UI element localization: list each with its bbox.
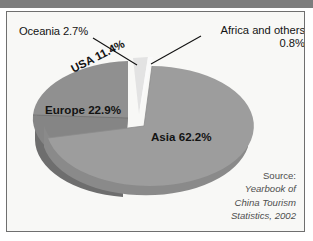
top-gray-band	[0, 0, 313, 8]
pie-chart: Oceania 2.7% Africa and others 0.8% USA …	[7, 12, 304, 231]
label-africa-line1: Africa and others	[220, 24, 304, 36]
label-europe: Europe 22.9%	[45, 103, 121, 116]
figure-frame-inner: Oceania 2.7% Africa and others 0.8% USA …	[7, 12, 304, 231]
source-line-4: Statistics, 2002	[231, 209, 296, 223]
source-line-1: Source:	[231, 169, 296, 183]
label-africa-line2: 0.8%	[205, 37, 304, 50]
label-africa: Africa and others 0.8%	[205, 24, 304, 49]
source-line-3: China Tourism	[231, 196, 296, 210]
figure-root: Oceania 2.7% Africa and others 0.8% USA …	[0, 0, 313, 241]
label-asia: Asia 62.2%	[151, 130, 212, 143]
figure-frame: Oceania 2.7% Africa and others 0.8% USA …	[6, 11, 305, 232]
label-oceania: Oceania 2.7%	[19, 25, 88, 38]
source-note: Source: Yearbook of China Tourism Statis…	[231, 169, 296, 223]
source-line-2: Yearbook of	[231, 182, 296, 196]
leader-line-africa	[151, 36, 201, 64]
